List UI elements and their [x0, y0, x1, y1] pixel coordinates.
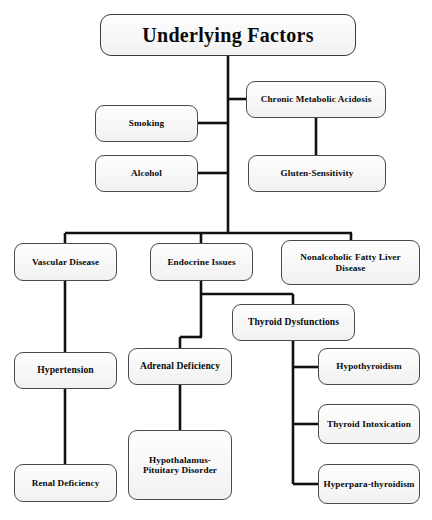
- node-alcohol[interactable]: Alcohol: [95, 155, 198, 192]
- node-hyperparathyroidism-label: Hyperpara-thyroidism: [323, 479, 415, 489]
- flowchart-canvas: Underlying Factors Chronic Metabolic Aci…: [0, 0, 432, 520]
- node-adrenal-deficiency-label: Adrenal Deficiency: [133, 361, 227, 372]
- node-endocrine-issues-label: Endocrine Issues: [155, 257, 248, 267]
- node-endocrine-issues[interactable]: Endocrine Issues: [150, 243, 253, 281]
- node-chronic-metabolic-acidosis-label: Chronic Metabolic Acidosis: [251, 94, 381, 104]
- node-hypothalamus-pituitary-disorder-label: Hypothalamus-Pituitary Disorder: [133, 455, 227, 476]
- node-renal-deficiency[interactable]: Renal Deficiency: [14, 464, 117, 502]
- node-nonalcoholic-fatty-liver-disease-label: Nonalcoholic Fatty Liver Disease: [286, 252, 415, 273]
- node-nonalcoholic-fatty-liver-disease[interactable]: Nonalcoholic Fatty Liver Disease: [281, 240, 420, 285]
- node-hyperparathyroidism[interactable]: Hyperpara-thyroidism: [318, 464, 420, 504]
- node-gluten-sensitivity-label: Gluten-Sensitivity: [253, 168, 381, 178]
- node-renal-deficiency-label: Renal Deficiency: [19, 478, 112, 488]
- node-thyroid-intoxication[interactable]: Thyroid Intoxication: [318, 404, 420, 444]
- node-hypothalamus-pituitary-disorder[interactable]: Hypothalamus-Pituitary Disorder: [128, 430, 232, 500]
- node-alcohol-label: Alcohol: [100, 168, 193, 178]
- node-thyroid-dysfunctions[interactable]: Thyroid Dysfunctions: [232, 304, 355, 341]
- node-gluten-sensitivity[interactable]: Gluten-Sensitivity: [248, 155, 386, 192]
- node-thyroid-intoxication-label: Thyroid Intoxication: [323, 419, 415, 429]
- node-hypertension-label: Hypertension: [19, 365, 112, 376]
- node-root-label: Underlying Factors: [105, 24, 351, 46]
- node-root[interactable]: Underlying Factors: [100, 14, 356, 56]
- node-hypothyroidism-label: Hypothyroidism: [323, 361, 415, 371]
- node-thyroid-dysfunctions-label: Thyroid Dysfunctions: [237, 317, 350, 328]
- node-vascular-disease[interactable]: Vascular Disease: [14, 243, 117, 281]
- node-adrenal-deficiency[interactable]: Adrenal Deficiency: [128, 348, 232, 385]
- node-hypothyroidism[interactable]: Hypothyroidism: [318, 348, 420, 385]
- node-smoking[interactable]: Smoking: [95, 105, 198, 142]
- node-smoking-label: Smoking: [100, 118, 193, 128]
- node-vascular-disease-label: Vascular Disease: [19, 257, 112, 267]
- node-chronic-metabolic-acidosis[interactable]: Chronic Metabolic Acidosis: [246, 81, 386, 118]
- node-hypertension[interactable]: Hypertension: [14, 352, 117, 389]
